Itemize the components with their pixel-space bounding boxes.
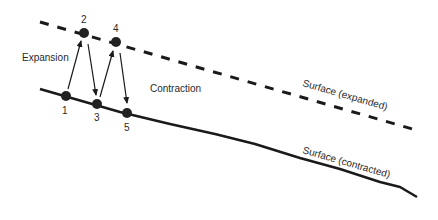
point-1-label: 1 xyxy=(62,105,68,116)
surface-expanded-label: Surface (expanded) xyxy=(301,77,388,112)
point-5-label: 5 xyxy=(124,122,130,133)
arrow-3-to-4 xyxy=(100,51,113,97)
point-3-label: 3 xyxy=(94,112,100,123)
contraction-label: Contraction xyxy=(150,83,201,94)
arrow-2-to-3 xyxy=(88,44,96,95)
arrow-4-to-5 xyxy=(120,53,127,103)
point-5 xyxy=(122,108,132,118)
point-2 xyxy=(79,28,89,38)
point-3 xyxy=(92,99,102,109)
point-4 xyxy=(111,37,121,47)
expansion-label: Expansion xyxy=(22,52,69,63)
point-2-label: 2 xyxy=(81,14,87,25)
point-4-label: 4 xyxy=(113,23,119,34)
arrow-1-to-2 xyxy=(68,41,81,89)
point-1 xyxy=(61,91,71,101)
expansion-contraction-diagram: 1 2 3 4 5 Expansion Contraction Surface … xyxy=(0,0,438,220)
